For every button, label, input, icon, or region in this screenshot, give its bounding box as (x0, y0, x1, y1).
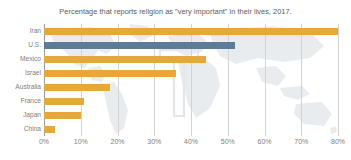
category-label-iran: Iran (0, 27, 41, 34)
category-label-france: France (0, 97, 41, 104)
x-tick-label-50pct: 50% (221, 138, 235, 145)
category-label-australia: Australia (0, 83, 41, 90)
bar-u-s (44, 42, 235, 49)
gridline-80% (338, 24, 339, 136)
x-tick-label-70pct: 70% (294, 138, 308, 145)
x-tick-label-60pct: 60% (257, 138, 271, 145)
value-axis-labels: 0%10%20%30%40%50%60%70%80% (0, 138, 351, 152)
x-tick-label-80pct: 80% (331, 138, 345, 145)
bar-mexico (44, 56, 206, 63)
bar-japan (44, 112, 81, 119)
x-tick-label-30pct: 30% (147, 138, 161, 145)
x-tick-label-0pct: 0% (39, 138, 49, 145)
category-label-israel: Israel (0, 69, 41, 76)
x-tick-label-10pct: 10% (74, 138, 88, 145)
category-label-mexico: Mexico (0, 55, 41, 62)
bar-iran (44, 28, 338, 35)
bar-china (44, 126, 55, 133)
bars-layer (44, 24, 338, 136)
bar-chart: Percentage that reports religion as "ver… (0, 0, 351, 160)
category-label-china: China (0, 125, 41, 132)
bar-israel (44, 70, 176, 77)
x-tick-label-40pct: 40% (184, 138, 198, 145)
chart-title: Percentage that reports religion as "ver… (0, 7, 351, 16)
x-tick-label-20pct: 20% (110, 138, 124, 145)
category-label-japan: Japan (0, 111, 41, 118)
bar-australia (44, 84, 110, 91)
category-label-u-s: U.S. (0, 41, 41, 48)
bar-france (44, 98, 84, 105)
plot-area (44, 24, 338, 136)
category-axis-labels: IranU.S.MexicoIsraelAustraliaFranceJapan… (0, 24, 41, 136)
